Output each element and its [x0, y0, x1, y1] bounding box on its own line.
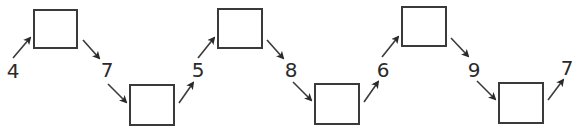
arrow-icon — [179, 83, 193, 103]
arrow-icon — [477, 81, 495, 99]
arrow-icon — [548, 80, 563, 100]
arrow-icon — [108, 84, 126, 102]
number-label-6: 9 — [466, 60, 482, 80]
number-label-3: 5 — [190, 60, 206, 80]
arrow-icon — [267, 40, 283, 58]
number-label-2: 7 — [99, 60, 115, 80]
arrow-icon — [451, 38, 468, 56]
number-label-1: 4 — [5, 61, 21, 81]
answer-box-4[interactable] — [314, 83, 360, 125]
number-label-7: 7 — [559, 58, 575, 78]
arrow-icon — [83, 40, 99, 58]
answer-box-6[interactable] — [498, 82, 544, 124]
answer-box-3[interactable] — [217, 8, 263, 49]
number-chain-diagram: 4 7 5 8 6 9 7 — [0, 0, 579, 133]
arrow-icon — [382, 37, 398, 57]
number-label-5: 6 — [375, 60, 391, 80]
answer-box-2[interactable] — [129, 84, 175, 126]
arrow-icon — [13, 38, 30, 58]
number-label-4: 8 — [283, 60, 299, 80]
arrow-icon — [364, 82, 378, 102]
answer-box-1[interactable] — [33, 9, 78, 49]
answer-box-5[interactable] — [401, 6, 447, 47]
arrow-icon — [293, 82, 311, 100]
arrow-icon — [198, 38, 214, 58]
